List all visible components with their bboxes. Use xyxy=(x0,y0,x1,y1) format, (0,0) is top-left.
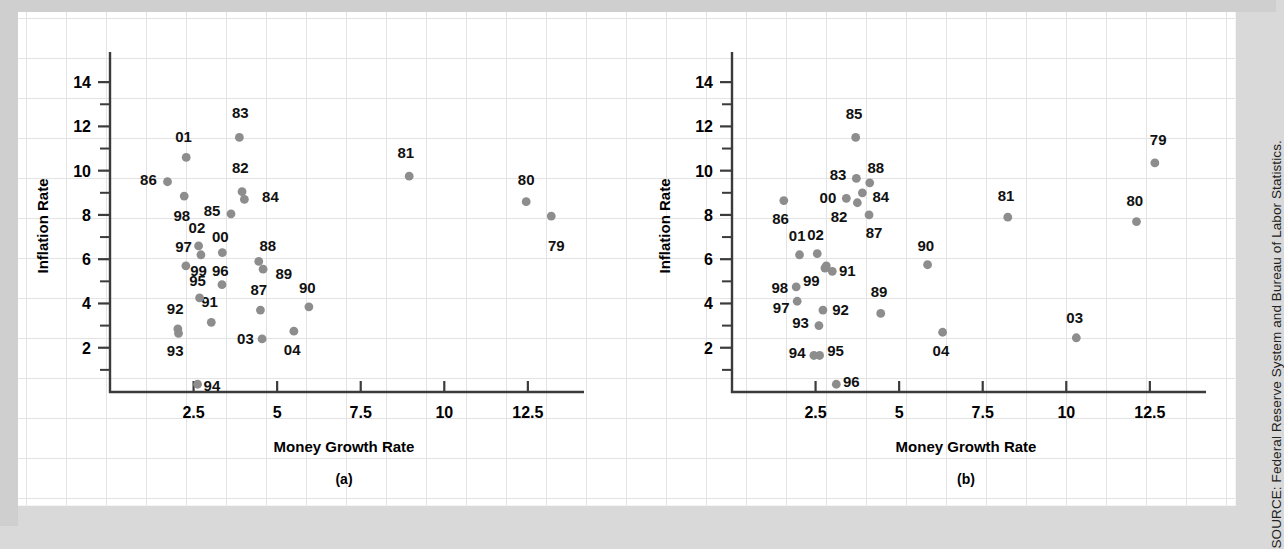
data-point: 87 xyxy=(865,211,883,241)
x-tick-label: 7.5 xyxy=(350,404,372,421)
data-point-marker xyxy=(163,177,172,186)
data-point-marker xyxy=(876,309,885,318)
data-point-label: 02 xyxy=(189,219,206,236)
data-point-label: 90 xyxy=(918,237,935,254)
data-point-label: 80 xyxy=(1126,192,1143,209)
y-axis-title: Inflation Rate xyxy=(656,178,673,273)
data-point-marker xyxy=(1003,213,1012,222)
data-point: 90 xyxy=(918,237,935,269)
data-point-label: 04 xyxy=(284,341,301,358)
data-point-marker xyxy=(815,321,824,330)
data-point-marker xyxy=(923,260,932,269)
data-point-label: 87 xyxy=(250,281,267,298)
data-point-label: 03 xyxy=(1066,309,1083,326)
x-tick-label: 2.5 xyxy=(804,404,826,421)
data-point-marker xyxy=(795,250,804,259)
panel-caption: (a) xyxy=(335,471,352,487)
data-point-label: 83 xyxy=(232,104,249,121)
data-point-marker xyxy=(182,153,191,162)
data-point-marker xyxy=(522,197,531,206)
y-tick-label: 14 xyxy=(695,74,713,91)
data-point: 01 xyxy=(789,227,806,259)
x-tick-label: 5 xyxy=(895,404,904,421)
data-point-label: 98 xyxy=(771,279,788,296)
data-point-marker xyxy=(259,265,268,274)
data-point-label: 86 xyxy=(140,171,157,188)
data-point-label: 01 xyxy=(175,128,192,145)
x-axis-title: Money Growth Rate xyxy=(274,438,415,455)
data-point: 86 xyxy=(140,171,172,188)
y-tick-label: 6 xyxy=(82,251,91,268)
data-point-marker xyxy=(832,380,841,389)
data-point: 03 xyxy=(1066,309,1083,342)
data-point-marker xyxy=(254,257,263,266)
data-point: 83 xyxy=(830,166,861,183)
data-point: 92 xyxy=(167,300,184,333)
data-point-label: 82 xyxy=(831,208,848,225)
source-note-text: SOURCE: Federal Reserve System and Burea… xyxy=(1269,149,1284,549)
y-tick-label: 14 xyxy=(73,74,91,91)
data-point: 81 xyxy=(998,187,1015,221)
x-tick-label: 10 xyxy=(1057,404,1075,421)
panel-a-svg: 24681012142.557.51012.5Inflation RateMon… xyxy=(18,12,618,492)
data-point: 99 xyxy=(190,250,207,279)
data-point-marker xyxy=(819,306,828,315)
data-point-label: 94 xyxy=(789,344,806,361)
y-axis-title: Inflation Rate xyxy=(34,178,51,273)
data-point: 96 xyxy=(212,262,229,289)
y-tick-label: 2 xyxy=(82,340,91,357)
data-point-label: 79 xyxy=(1150,131,1167,148)
data-point-label: 89 xyxy=(275,265,292,282)
data-point-marker xyxy=(305,302,314,311)
data-point: 93 xyxy=(167,329,184,359)
data-point-marker xyxy=(813,249,822,258)
data-point: 79 xyxy=(1150,131,1167,168)
data-point: 88 xyxy=(254,237,276,266)
data-point-label: 00 xyxy=(212,228,229,245)
data-point-label: 81 xyxy=(397,144,414,161)
data-point-label: 93 xyxy=(167,342,184,359)
x-axis-title: Money Growth Rate xyxy=(896,438,1037,455)
data-point-marker xyxy=(218,248,227,257)
data-point-label: 97 xyxy=(773,299,790,316)
data-point-marker xyxy=(207,318,216,327)
data-point-marker xyxy=(218,280,227,289)
data-point: 99 xyxy=(803,261,831,289)
data-point-marker xyxy=(181,261,190,270)
data-point-label: 79 xyxy=(548,237,565,254)
data-point xyxy=(819,306,828,315)
data-point-label: 96 xyxy=(843,373,860,390)
x-tick-label: 12.5 xyxy=(512,404,543,421)
data-point-label: 96 xyxy=(212,262,229,279)
data-point-label: 02 xyxy=(807,226,824,243)
data-point: 97 xyxy=(773,297,802,316)
data-point-label: 88 xyxy=(867,159,884,176)
data-point: 86 xyxy=(772,196,789,227)
data-point-label: 88 xyxy=(259,237,276,254)
y-tick-label: 8 xyxy=(82,207,91,224)
data-point: 85 xyxy=(204,202,236,219)
data-point-marker xyxy=(865,178,874,187)
data-point: 89 xyxy=(259,265,292,282)
data-point-marker xyxy=(793,297,802,306)
data-point-marker xyxy=(851,133,860,142)
data-point-marker xyxy=(235,133,244,142)
data-point-marker xyxy=(197,250,206,259)
data-point: 81 xyxy=(397,144,414,181)
y-tick-label: 10 xyxy=(695,163,713,180)
data-point-marker xyxy=(779,196,788,205)
data-point-label: 04 xyxy=(933,342,950,359)
data-point-marker xyxy=(865,211,874,220)
y-tick-label: 2 xyxy=(704,340,713,357)
data-point-label: 86 xyxy=(772,210,789,227)
data-point-label: 92 xyxy=(167,300,184,317)
data-point: 04 xyxy=(284,327,301,358)
y-tick-label: 4 xyxy=(82,295,91,312)
y-tick-label: 10 xyxy=(73,163,91,180)
data-point: 00 xyxy=(212,228,229,257)
data-point-label: 84 xyxy=(872,188,889,205)
data-point: 00 xyxy=(820,189,851,206)
data-point-marker xyxy=(193,380,202,389)
data-point-marker xyxy=(858,188,867,197)
data-point-marker xyxy=(256,306,265,315)
